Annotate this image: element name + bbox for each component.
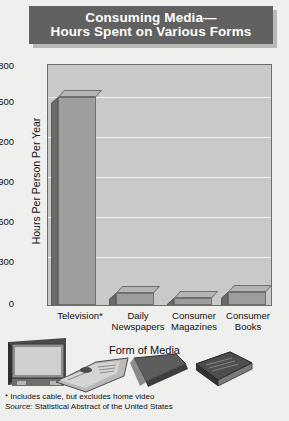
bar-television-side bbox=[51, 97, 58, 306]
plot-area bbox=[47, 64, 272, 306]
source-text: Statistical Abstract of the United State… bbox=[33, 402, 173, 411]
y-tick-label-1500: 1500 bbox=[0, 96, 14, 107]
bar-consumer-books bbox=[228, 292, 266, 305]
bar-consumer-books-side bbox=[221, 292, 228, 306]
television-illustration bbox=[8, 338, 66, 386]
chart-title-line-2: Hours Spent on Various Forms bbox=[51, 25, 252, 39]
bar-consumer-magazines bbox=[174, 298, 212, 305]
footnote-asterisk: * Includes cable, but excludes home vide… bbox=[5, 392, 255, 402]
bar-consumer-magazines-top bbox=[174, 291, 218, 298]
bar-consumer-books-front bbox=[228, 292, 266, 305]
bar-consumer-magazines-side bbox=[167, 298, 174, 306]
y-tick-label-600: 600 bbox=[0, 216, 14, 227]
bar-daily-newspapers bbox=[116, 293, 154, 305]
y-tick-label-1800: 1800 bbox=[0, 60, 14, 71]
bar-consumer-magazines-front bbox=[174, 298, 212, 305]
bar-daily-newspapers-top bbox=[116, 286, 160, 293]
newspaper-illustration bbox=[56, 358, 128, 392]
bar-television-front bbox=[58, 97, 96, 305]
bar-daily-newspapers-side bbox=[109, 293, 116, 306]
chart-page: Consuming Media— Hours Spent on Various … bbox=[0, 0, 289, 421]
bar-consumer-books-top bbox=[228, 285, 272, 292]
y-tick-label-1200: 1200 bbox=[0, 136, 14, 147]
y-tick-label-0: 0 bbox=[0, 298, 14, 309]
chart-title-line-1: Consuming Media— bbox=[85, 11, 216, 25]
y-axis-title: Hours Per Person Per Year bbox=[30, 81, 42, 281]
x-label-consumer-books: Consumer Books bbox=[210, 310, 286, 332]
y-tick-label-900: 900 bbox=[0, 176, 14, 187]
media-illustrations bbox=[0, 336, 289, 398]
magazine-illustration bbox=[130, 354, 188, 387]
footnotes: * Includes cable, but excludes home vide… bbox=[5, 392, 255, 412]
book-illustration bbox=[196, 352, 252, 386]
bar-daily-newspapers-front bbox=[116, 293, 154, 305]
chart-title-banner: Consuming Media— Hours Spent on Various … bbox=[29, 6, 273, 44]
bar-television-top bbox=[58, 90, 102, 97]
bar-television bbox=[58, 97, 96, 305]
y-tick-label-300: 300 bbox=[0, 256, 14, 267]
source-label: Source: bbox=[5, 402, 33, 411]
source-line: Source: Statistical Abstract of the Unit… bbox=[5, 402, 255, 412]
